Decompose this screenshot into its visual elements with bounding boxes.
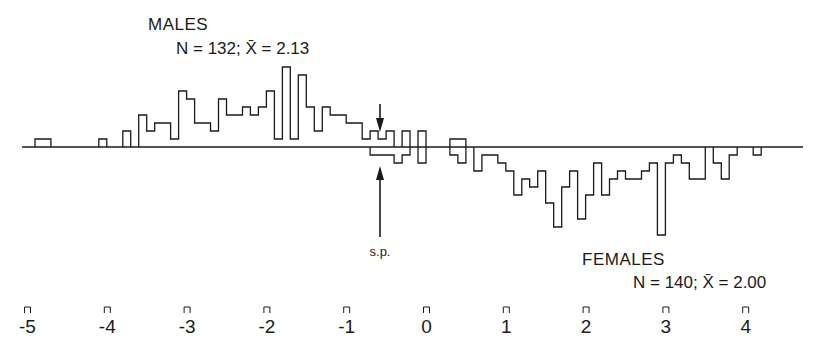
sp-label: s.p. [370,244,391,259]
tick-label: -3 [179,316,196,338]
tick-mark [25,307,31,313]
sp-arrow-top [376,104,384,132]
tick-mark [503,307,509,313]
tick-label: -5 [19,316,36,338]
tick-mark [184,307,190,313]
tick-label: 0 [421,316,432,338]
tick-label: -1 [338,316,355,338]
tick-label: -4 [99,316,116,338]
females-histogram [370,147,761,235]
tick-mark [663,307,669,313]
histogram-chart [0,0,825,348]
males-stats: N = 132; X̄ = 2.13 [176,39,309,59]
tick-label: -2 [258,316,275,338]
sp-arrow-bottom [376,166,384,237]
tick-label: 1 [501,316,512,338]
tick-mark [743,307,749,313]
females-stats: N = 140; X̄ = 2.00 [633,273,766,293]
tick-mark [104,307,110,313]
tick-mark [264,307,270,313]
x-axis-ticks [25,307,749,313]
tick-label: 4 [740,316,751,338]
males-title: MALES [148,15,208,35]
tick-mark [583,307,589,313]
tick-label: 2 [581,316,592,338]
males-histogram [35,67,466,147]
females-title: FEMALES [582,250,665,270]
tick-mark [424,307,430,313]
tick-mark [344,307,350,313]
tick-label: 3 [661,316,672,338]
